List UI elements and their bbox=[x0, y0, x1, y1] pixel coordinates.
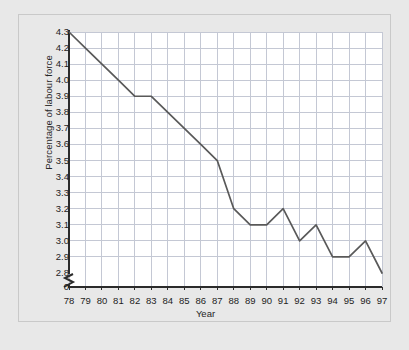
y-axis-tick-label: 3.1 bbox=[35, 220, 69, 230]
y-axis-tick-label: 2.9 bbox=[35, 252, 69, 262]
y-axis-tick-label: 3.0 bbox=[35, 236, 69, 246]
y-axis-title: Percentage of labour force bbox=[43, 38, 54, 188]
chart-plot-frame: 4.34.24.14.03.93.83.73.63.53.43.33.23.13… bbox=[18, 14, 391, 322]
x-axis-tick-label: 97 bbox=[370, 295, 394, 306]
x-axis-tick-labels: 7879808182838485868788899091929394959697 bbox=[19, 287, 392, 307]
x-axis-title: Year bbox=[19, 308, 392, 319]
y-axis-tick-label: 3.3 bbox=[35, 188, 69, 198]
y-axis-tick-label: 3.2 bbox=[35, 204, 69, 214]
y-axis-tick-label: 2.8 bbox=[35, 268, 69, 278]
y-axis-tick-label: 4.3 bbox=[35, 27, 69, 37]
chart-figure: 4.34.24.14.03.93.83.73.63.53.43.33.23.13… bbox=[0, 0, 409, 350]
grid-lines bbox=[69, 32, 382, 287]
chart-canvas bbox=[19, 15, 392, 323]
